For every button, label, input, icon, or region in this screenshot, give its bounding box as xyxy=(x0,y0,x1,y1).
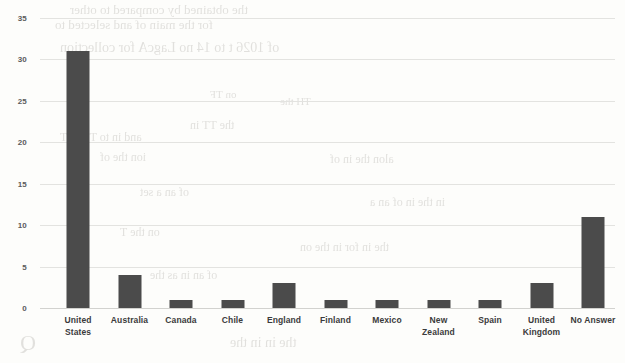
bar-slot xyxy=(464,14,516,312)
x-tick-label: England xyxy=(255,314,313,326)
y-tick-label: 10 xyxy=(0,221,27,230)
bar[interactable] xyxy=(324,300,347,308)
y-tick-label: 5 xyxy=(0,262,27,271)
x-tick-label: UnitedKingdom xyxy=(513,314,571,338)
bar-slot xyxy=(567,14,619,312)
bar[interactable] xyxy=(67,51,90,308)
bar[interactable] xyxy=(273,283,296,308)
bar-slot xyxy=(52,14,104,312)
x-tick-label: Canada xyxy=(152,314,210,326)
x-tick-label-line: United xyxy=(513,314,571,326)
bar[interactable] xyxy=(221,300,244,308)
x-tick-label-line: Finland xyxy=(307,314,365,326)
x-tick-label-line: No Answer xyxy=(564,314,622,326)
bar-slot xyxy=(258,14,310,312)
x-tick-label-line: Australia xyxy=(101,314,159,326)
bar-slot xyxy=(310,14,362,312)
bar-slot xyxy=(155,14,207,312)
x-tick-label: Finland xyxy=(307,314,365,326)
x-tick-label: No Answer xyxy=(564,314,622,326)
x-tick-label: NewZealand xyxy=(410,314,468,338)
x-tick-label-line: Mexico xyxy=(358,314,416,326)
bar[interactable] xyxy=(427,300,450,308)
x-axis-tick-labels: UnitedStatesAustraliaCanadaChileEnglandF… xyxy=(40,314,615,360)
x-tick-label-line: Kingdom xyxy=(513,326,571,338)
x-tick-label: Spain xyxy=(461,314,519,326)
bar-slot xyxy=(361,14,413,312)
bar-slot xyxy=(516,14,568,312)
plot-area: 05101520253035 xyxy=(40,14,615,312)
x-tick-label: Chile xyxy=(204,314,262,326)
x-tick-label-line: Spain xyxy=(461,314,519,326)
x-tick-label-line: New xyxy=(410,314,468,326)
bar-slot xyxy=(413,14,465,312)
y-tick-label: 25 xyxy=(0,96,27,105)
x-tick-label-line: States xyxy=(49,326,107,338)
bar-series xyxy=(40,14,615,312)
x-tick-label: Australia xyxy=(101,314,159,326)
bar[interactable] xyxy=(376,300,399,308)
bar[interactable] xyxy=(582,217,605,308)
bar-chart: 05101520253035 UnitedStatesAustraliaCana… xyxy=(0,0,625,363)
bar-slot xyxy=(207,14,259,312)
bar[interactable] xyxy=(530,283,553,308)
bar-slot xyxy=(104,14,156,312)
y-tick-label: 35 xyxy=(0,14,27,23)
bar[interactable] xyxy=(170,300,193,308)
y-tick-label: 15 xyxy=(0,179,27,188)
bar[interactable] xyxy=(479,300,502,308)
x-tick-label-line: England xyxy=(255,314,313,326)
x-tick-label-line: Canada xyxy=(152,314,210,326)
x-tick-label-line: United xyxy=(49,314,107,326)
x-tick-label-line: Chile xyxy=(204,314,262,326)
x-tick-label: Mexico xyxy=(358,314,416,326)
bar[interactable] xyxy=(118,275,141,308)
y-tick-label: 20 xyxy=(0,138,27,147)
y-tick-label: 30 xyxy=(0,55,27,64)
x-tick-label-line: Zealand xyxy=(410,326,468,338)
x-tick-label: UnitedStates xyxy=(49,314,107,338)
y-tick-label: 0 xyxy=(0,304,27,313)
